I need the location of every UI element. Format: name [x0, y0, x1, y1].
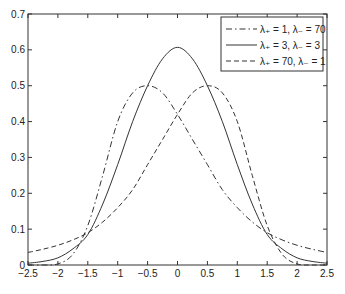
series-curve-solid: [28, 47, 327, 263]
y-tick-label: 0.6: [11, 44, 25, 55]
chart-legend: λ₊ = 1, λ₋ = 70 λ₊ = 3, λ₋ = 3 λ₊ = 70, …: [221, 17, 326, 71]
series-curve-dashed: [28, 86, 327, 265]
plot-curves: [28, 47, 327, 265]
legend-label-3: λ₊ = 70, λ₋ = 1: [260, 56, 326, 67]
x-tick-label: −2: [52, 268, 64, 279]
y-tick-label: 0.3: [11, 152, 25, 163]
x-tick-label: 0: [175, 268, 181, 279]
x-tick-label: 0.5: [200, 268, 214, 279]
y-tick-label: 0.2: [11, 188, 25, 199]
x-tick-label: −1.5: [78, 268, 98, 279]
legend-label-2: λ₊ = 3, λ₋ = 3: [260, 40, 320, 51]
y-tick-label: 0.1: [11, 224, 25, 235]
y-tick-label: 0: [19, 260, 25, 271]
x-tick-label: −1: [112, 268, 124, 279]
y-tick-label: 0.7: [11, 9, 25, 20]
y-tick-label: 0.5: [11, 80, 25, 91]
legend-label-1: λ₊ = 1, λ₋ = 70: [260, 24, 326, 35]
x-tick-label: 1.5: [260, 268, 274, 279]
x-tick-label: 1: [235, 268, 241, 279]
series-curve-dashdot: [28, 86, 327, 265]
x-tick-label: 2: [294, 268, 300, 279]
line-chart: −2.5−2−1.5−1−0.500.511.522.5 00.10.20.30…: [0, 0, 345, 294]
y-tick-label: 0.4: [11, 116, 25, 127]
x-tick-label: −0.5: [138, 268, 158, 279]
x-tick-label: 2.5: [320, 268, 334, 279]
